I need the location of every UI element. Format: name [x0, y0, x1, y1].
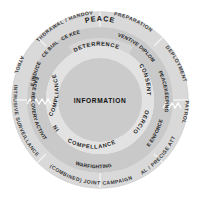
outer-label-patrol-left: PATROL: [0, 0, 26, 75]
spectrum-of-conflict-wheel: PEACE INFORMATION WITHDRAWAL / HANDOVER …: [0, 0, 200, 205]
center-label: INFORMATION: [74, 97, 127, 104]
